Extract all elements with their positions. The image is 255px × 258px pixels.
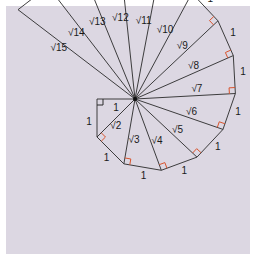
unit-length-label: 1 [215,141,221,152]
right-angle-marker [97,99,103,105]
hypotenuse-label: √3 [128,134,139,145]
unit-length-label: 1 [141,170,147,181]
spiral-of-theodorus: 1√21√31√41√51√61√71√81√91√101√111√121√13… [0,0,255,258]
hypotenuse-label: √14 [68,27,85,38]
hypotenuse-label: √5 [172,124,183,135]
unit-length-label: 1 [104,152,110,163]
center-point [133,97,137,101]
hypotenuse-label: √9 [177,40,188,51]
hypotenuse-line [135,56,233,99]
hypotenuse-label: √2 [110,120,121,131]
hypotenuse-line [135,94,235,99]
right-angle-marker [229,88,235,94]
unit-length-label: 1 [240,66,246,77]
hypotenuse-label: √6 [186,106,197,117]
hypotenuse-label: √7 [191,83,202,94]
unit-edge [192,0,218,21]
hypotenuse-label: √13 [89,16,106,27]
hypotenuse-label: √8 [188,60,199,71]
unit-length-label: 1 [113,102,119,113]
unit-length-label: 1 [86,116,92,127]
hypotenuse-label: √11 [136,15,152,26]
hypotenuse-label: √10 [157,24,174,35]
unit-edge [18,0,48,10]
hypotenuse-label: √12 [112,12,129,23]
hypotenuse-label: √4 [151,135,162,146]
right-angle-marker [209,16,213,24]
hypotenuse-label: √15 [51,42,68,53]
right-angle-marker [193,149,201,153]
unit-length-label: 1 [230,27,236,38]
unit-length-label: 1 [208,0,214,4]
unit-length-label: 1 [235,106,241,117]
right-angle-marker [101,133,105,141]
unit-length-label: 1 [181,165,187,176]
